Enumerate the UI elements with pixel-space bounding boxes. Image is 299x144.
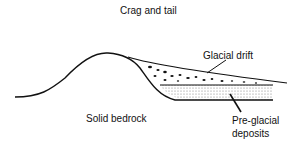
glacial-drift-leader (207, 60, 226, 73)
glacial-drift-layer (130, 57, 287, 85)
pre-glacial-label-line2: deposits (232, 128, 269, 139)
solid-bedrock-label: Solid bedrock (86, 113, 147, 124)
glacial-drift-label: Glacial drift (203, 50, 253, 61)
pre-glacial-deposits-layer (160, 85, 273, 100)
pre-glacial-label-line1: Pre-glacial (232, 115, 279, 126)
